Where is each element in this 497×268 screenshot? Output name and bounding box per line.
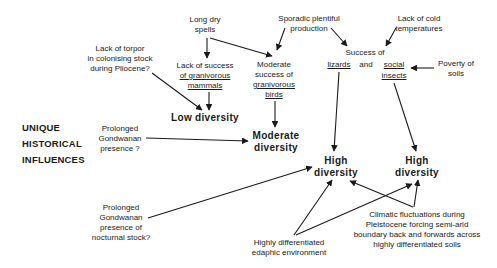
node-success-of: Success of	[345, 48, 384, 58]
arrow-edaphic-to-high1	[294, 180, 332, 235]
node-low-diversity: Low diversity	[171, 112, 239, 124]
arrow-insects-to-high2	[394, 83, 416, 151]
node-moderate-diversity: Moderatediversity	[253, 130, 300, 154]
node-lack-success-granivorous-mammals: Lack of successof granivorousmammals	[177, 61, 234, 91]
node-prolonged-gondwanan-presence: ProlongedGondwananpresence ?	[98, 124, 141, 154]
node-long-dry-spells: Long dryspells	[189, 15, 220, 35]
node-lack-of-torpor: Lack of torporin colonising stockduring …	[88, 44, 153, 74]
node-prolonged-gondwanan-nocturnal: ProlongedGondwananpresence ofnocturnal s…	[92, 203, 150, 243]
node-climatic-fluctuations: Climatic fluctuations duringPleistocene …	[354, 210, 481, 250]
arrow-gond1-to-moddiv	[146, 138, 248, 141]
node-and: and	[359, 60, 372, 70]
node-moderate-success-granivorous-birds: Moderatesuccess ofgranivorousbirds	[253, 60, 295, 100]
node-poverty-of-soils: Poverty ofsoils	[438, 59, 474, 79]
arrow-gond2-to-high1	[148, 167, 312, 218]
heading-unique-historical-influences: UNIQUE HISTORICAL INFLUENCES	[22, 120, 85, 168]
node-sporadic-production: Sporadic plentifulproduction	[278, 14, 339, 34]
node-lizards: lizards	[327, 60, 350, 70]
node-highly-differentiated-edaphic: Highly differentiatededaphic environment	[252, 238, 326, 258]
node-lack-cold-temperatures: Lack of coldtemperatures	[395, 14, 442, 34]
arrow-climatic-to-high1	[350, 181, 413, 207]
node-high-diversity-lizards: Highdiversity	[314, 155, 358, 179]
arrow-longdry-to-birds	[210, 38, 272, 56]
node-social-insects: socialinsects	[382, 60, 407, 81]
arrow-climatic-to-high2	[414, 180, 418, 207]
node-high-diversity-insects: Highdiversity	[395, 155, 439, 179]
arrow-lizards-to-high1	[334, 72, 339, 151]
